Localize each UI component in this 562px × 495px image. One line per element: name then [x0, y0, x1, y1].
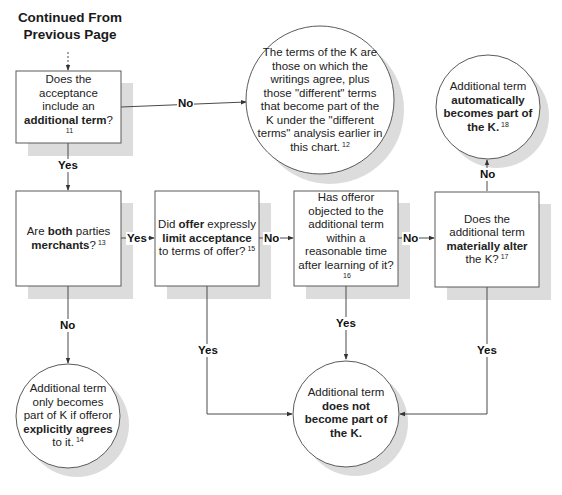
edge-label-yes-merchants: Yes: [126, 232, 148, 245]
question-both-merchants: Are both parties merchants?13: [20, 193, 117, 284]
question-limit-acceptance: Did offer expressly limit acceptance to …: [158, 193, 256, 284]
node-label: Has offeror objected to the additional t…: [297, 191, 395, 286]
flowchart: Continued From Previous Page Does the ac…: [0, 0, 562, 495]
question-materially-alter: Does the additional term materially alte…: [438, 194, 536, 285]
result-terms-of-k: The terms of the K are those on which th…: [256, 40, 384, 160]
edge-label-no-materially-alter: No: [479, 168, 496, 181]
edge-label-yes-limit-acceptance: Yes: [197, 344, 219, 357]
result-explicitly-agrees: Additional term only becomes part of K i…: [22, 378, 114, 454]
continued-from-previous-page: Continued From Previous Page: [12, 9, 128, 43]
question-offeror-objected: Has offeror objected to the additional t…: [297, 193, 395, 284]
footnote-ref: 11: [66, 127, 73, 134]
result-does-not-become-part: Additional term does not become part of …: [300, 380, 392, 446]
footnote-ref: 15: [247, 245, 255, 252]
edge-label-no-limit-acceptance: No: [263, 232, 280, 245]
header-line-2: Previous Page: [12, 26, 128, 43]
edge-label-yes-materially-alter: Yes: [476, 344, 498, 357]
footnote-ref: 16: [343, 272, 351, 279]
edge-label-no-additional-term: No: [177, 97, 194, 110]
node-label: The terms of the K are those on which th…: [256, 46, 384, 154]
edge-label-yes-offeror-objected: Yes: [335, 317, 357, 330]
footnote-ref: 13: [98, 239, 106, 246]
footnote-ref: 14: [76, 436, 84, 443]
node-label: Additional term automatically becomes pa…: [442, 80, 534, 134]
node-label: Does the additional term materially alte…: [438, 213, 536, 267]
question-additional-term: Does the acceptance include an additiona…: [20, 73, 117, 141]
footnote-ref: 17: [501, 253, 509, 260]
result-automatically-part-of-k: Additional term automatically becomes pa…: [442, 75, 534, 139]
node-label: Additional term only becomes part of K i…: [22, 382, 114, 450]
header-line-1: Continued From: [12, 9, 128, 26]
node-label: Additional term does not become part of …: [300, 386, 392, 440]
footnote-ref: 18: [501, 121, 509, 128]
footnote-ref: 12: [342, 141, 350, 148]
edge-label-yes-additional-term: Yes: [57, 159, 79, 172]
node-label: Did offer expressly limit acceptance to …: [158, 218, 256, 259]
node-label: Are both parties merchants?13: [20, 225, 117, 252]
edge-label-no-offeror-objected: No: [402, 232, 419, 245]
edge-label-no-merchants: No: [59, 319, 76, 332]
node-label: Does the acceptance include an additiona…: [20, 73, 117, 141]
